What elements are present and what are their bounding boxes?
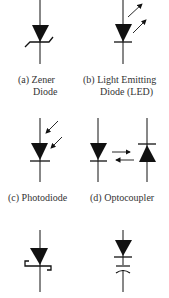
light-incident-arrow-icon bbox=[46, 121, 58, 133]
led-symbol bbox=[114, 0, 146, 64]
led-label-line1: (b) Light Emitting bbox=[83, 74, 156, 85]
zener-diode-symbol bbox=[25, 0, 53, 64]
optocoupler-label: (d) Optocoupler bbox=[90, 192, 154, 203]
led-label-line2: Diode (LED) bbox=[100, 86, 153, 97]
photodiode-label: (c) Photodiode bbox=[8, 192, 67, 203]
light-incident-arrow-icon bbox=[51, 137, 62, 148]
schottky-diode-symbol bbox=[25, 230, 51, 292]
zener-label-line2: Diode bbox=[33, 86, 57, 97]
photodiode-symbol bbox=[30, 118, 62, 182]
light-emission-arrow-icon bbox=[128, 4, 142, 17]
light-emission-arrow-icon bbox=[133, 20, 146, 33]
diode-symbols-diagram bbox=[0, 0, 169, 298]
varactor-diode-symbol bbox=[114, 230, 132, 292]
optocoupler-symbol bbox=[90, 118, 156, 182]
zener-label-line1: (a) Zener bbox=[18, 74, 55, 85]
